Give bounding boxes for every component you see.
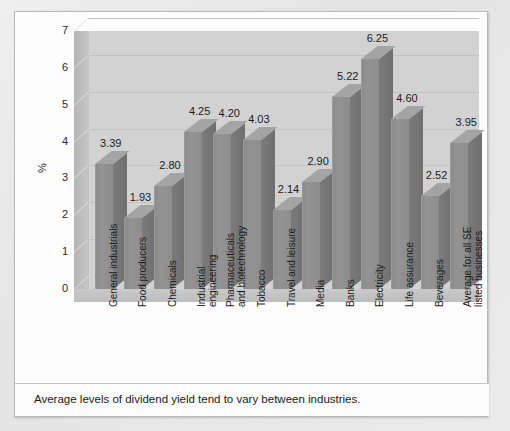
category-label-6: Tobacco: [256, 270, 267, 307]
category-label-line: Banks: [345, 279, 356, 307]
y-tick-label-1: 1: [46, 246, 68, 257]
figure-panel: % 01234567 3.391.932.804.254.204.032.142…: [14, 11, 488, 417]
bar-value-label-11: 4.60: [385, 92, 429, 104]
y-tick-label-2: 2: [46, 209, 68, 220]
y-tick-label-5: 5: [46, 99, 68, 110]
category-label-line: Chemicals: [167, 260, 178, 307]
category-label-line: Pharmaceuticals: [225, 226, 236, 307]
bar-chart: % 01234567 3.391.932.804.254.204.032.142…: [15, 12, 489, 384]
bar-series: 3.391.932.804.254.204.032.142.905.226.25…: [74, 31, 479, 302]
category-label-line: Travel and leisure: [286, 228, 297, 307]
caption-bar: Average levels of dividend yield tend to…: [15, 383, 489, 416]
category-label-line: engineering: [207, 255, 218, 307]
category-label-line: Average for all SE: [462, 227, 473, 307]
bar-front-face: [302, 182, 320, 289]
category-label-line: Food producers: [137, 237, 148, 307]
scanned-page: % 01234567 3.391.932.804.254.204.032.142…: [0, 0, 510, 431]
category-label-line: Electricity: [374, 264, 385, 307]
y-tick-label-0: 0: [46, 283, 68, 294]
bar-8: [302, 182, 320, 289]
y-tick-mark: [74, 17, 89, 32]
category-label-2: Food producers: [137, 237, 148, 307]
bar-front-face: [361, 59, 379, 289]
category-label-3: Chemicals: [167, 260, 178, 307]
bar-value-label-10: 6.25: [355, 32, 399, 44]
bar-value-label-1: 3.39: [89, 137, 133, 149]
y-tick-label-6: 6: [46, 62, 68, 73]
category-label-line: General industrials: [108, 224, 119, 307]
y-tick-label-4: 4: [46, 136, 68, 147]
category-label-11: Life assurance: [404, 242, 415, 307]
category-label-line: Tobacco: [256, 270, 267, 307]
category-label-line: Beverages: [434, 259, 445, 307]
category-label-4: Industrialengineering: [196, 255, 218, 307]
y-tick-label-3: 3: [46, 172, 68, 183]
category-label-line: Life assurance: [404, 242, 415, 307]
category-label-line: Media: [315, 280, 326, 307]
category-label-10: Electricity: [374, 264, 385, 307]
y-tick-label-7: 7: [46, 25, 68, 36]
category-label-8: Media: [315, 280, 326, 307]
figure-caption: Average levels of dividend yield tend to…: [34, 393, 360, 405]
gridline: [88, 18, 479, 19]
category-label-12: Beverages: [434, 259, 445, 307]
category-label-line: Industrial: [196, 255, 207, 307]
category-label-line: and biotechnology: [236, 226, 247, 307]
bar-value-label-13: 3.95: [444, 116, 488, 128]
bar-10: [361, 59, 379, 289]
category-label-9: Banks: [345, 279, 356, 307]
category-label-13: Average for all SElisted businesses: [462, 227, 484, 307]
category-label-line: listed businesses: [473, 227, 484, 307]
bar-value-label-6: 4.03: [237, 113, 281, 125]
category-label-1: General industrials: [108, 224, 119, 307]
category-label-5: Pharmaceuticalsand biotechnology: [225, 226, 247, 307]
category-label-7: Travel and leisure: [286, 228, 297, 307]
bar-front-face: [332, 97, 350, 289]
bar-9: [332, 97, 350, 289]
